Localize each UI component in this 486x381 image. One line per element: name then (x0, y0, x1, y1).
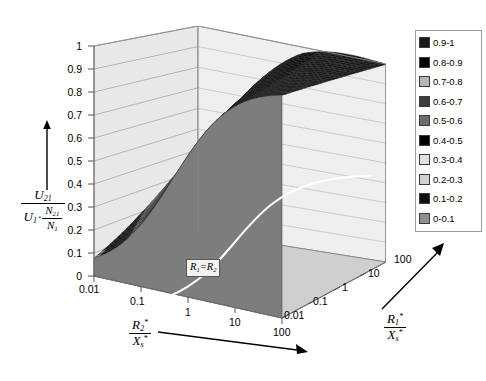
x-tick-label: 0.01 (79, 284, 99, 294)
y-tick-label: 0.01 (284, 310, 304, 320)
legend-label: 0.9-1 (433, 38, 455, 47)
z-tick-label: 0.6 (52, 133, 82, 143)
legend-label: 0.4-0.5 (433, 136, 463, 145)
legend-item: 0.9-1 (419, 33, 481, 53)
legend-swatch (419, 154, 430, 165)
legend-label: 0.3-0.4 (433, 155, 463, 164)
legend: 0.9-10.8-0.90.7-0.80.6-0.70.5-0.60.4-0.5… (415, 30, 482, 232)
legend-swatch (419, 96, 430, 107)
legend-item: 0.1-0.2 (419, 189, 481, 209)
legend-label: 0.7-0.8 (433, 77, 463, 86)
z-formula-numerator: U21 (21, 188, 66, 203)
z-axis-arrow (42, 120, 52, 190)
legend-label: 0.1-0.2 (433, 194, 463, 203)
legend-swatch (419, 76, 430, 87)
legend-item: 0.4-0.5 (419, 131, 481, 151)
z-tick-label: 0.9 (52, 64, 82, 74)
legend-item: 0-0.1 (419, 209, 481, 229)
z-tick-label: 0.8 (52, 87, 82, 97)
y-tick-label: 1 (342, 282, 348, 292)
legend-label: 0-0.1 (433, 214, 455, 223)
y-axis-fraction: R1* Xs* (384, 312, 406, 344)
x-axis-numerator: R2* (129, 318, 151, 333)
surface-plot-svg (86, 26, 386, 326)
legend-item: 0.8-0.9 (419, 53, 481, 73)
x-tick-label: 1 (185, 307, 191, 317)
x-axis-fraction: R2* Xs* (129, 318, 151, 350)
surface-plot: 1 0.9 0.8 0.7 0.6 0.5 0.4 0.3 0.2 0.1 0 … (86, 26, 386, 326)
x-axis-arrow (158, 330, 308, 356)
z-tick-label: 0.5 (52, 156, 82, 166)
z-tick-label: 0.3 (52, 202, 82, 212)
x-axis-denominator: Xs* (129, 333, 151, 349)
y-tick-label: 0.1 (313, 296, 328, 306)
z-tick-label: 0 (52, 271, 82, 281)
legend-swatch (419, 115, 430, 126)
legend-item: 0.5-0.6 (419, 111, 481, 131)
legend-item: 0.3-0.4 (419, 150, 481, 170)
legend-swatch (419, 213, 430, 224)
z-tick-label: 0.4 (52, 179, 82, 189)
legend-item: 0.6-0.7 (419, 92, 481, 112)
chart-canvas: U21 U1·N21N1 (0, 0, 486, 381)
ridge-annotation-label: R1=R2 (186, 259, 220, 277)
legend-swatch (419, 193, 430, 204)
y-axis-title: R1* Xs* (384, 312, 428, 344)
legend-swatch (419, 174, 430, 185)
legend-label: 0.6-0.7 (433, 97, 463, 106)
z-tick-label: 0.1 (52, 248, 82, 258)
legend-item: 0.7-0.8 (419, 72, 481, 92)
legend-label: 0.8-0.9 (433, 58, 463, 67)
z-tick-label: 1 (52, 41, 82, 51)
y-axis-arrow (376, 243, 446, 313)
z-tick-marks (88, 46, 94, 276)
legend-item: 0.2-0.3 (419, 170, 481, 190)
y-axis-numerator: R1* (384, 312, 406, 327)
x-tick-label: 10 (229, 317, 241, 327)
y-axis-denominator: Xs* (384, 327, 406, 343)
legend-swatch (419, 135, 430, 146)
x-tick-label: 0.1 (130, 296, 145, 306)
z-tick-label: 0.7 (52, 110, 82, 120)
legend-swatch (419, 57, 430, 68)
legend-label: 0.5-0.6 (433, 116, 463, 125)
z-tick-label: 0.2 (52, 225, 82, 235)
legend-swatch (419, 37, 430, 48)
legend-label: 0.2-0.3 (433, 175, 463, 184)
